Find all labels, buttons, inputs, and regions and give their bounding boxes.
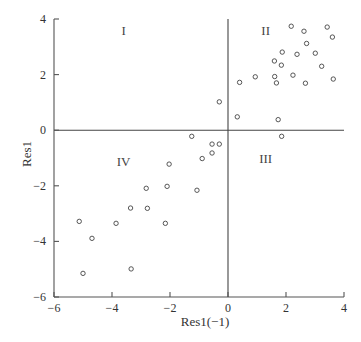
data-point bbox=[195, 188, 199, 192]
axes bbox=[54, 19, 344, 297]
y-ticks: −6−4−2024 bbox=[33, 12, 59, 304]
data-point bbox=[274, 81, 278, 85]
data-point bbox=[165, 184, 169, 188]
data-point bbox=[210, 151, 214, 155]
y-tick-label: −2 bbox=[33, 179, 46, 193]
data-point bbox=[276, 117, 280, 121]
x-tick-label: −6 bbox=[48, 301, 61, 315]
data-point bbox=[302, 29, 306, 33]
data-point bbox=[289, 24, 293, 28]
data-point bbox=[235, 115, 239, 119]
data-point bbox=[304, 41, 308, 45]
x-tick-label: −2 bbox=[164, 301, 177, 315]
y-tick-label: 0 bbox=[40, 123, 46, 137]
data-point bbox=[81, 271, 85, 275]
data-point bbox=[325, 25, 329, 29]
data-point bbox=[217, 100, 221, 104]
data-point bbox=[210, 142, 214, 146]
data-point bbox=[313, 51, 317, 55]
y-tick-label: −6 bbox=[33, 290, 46, 304]
data-point bbox=[237, 80, 241, 84]
data-point bbox=[319, 64, 323, 68]
quadrant-label: I bbox=[121, 23, 125, 38]
x-tick-label: 4 bbox=[341, 301, 347, 315]
data-point bbox=[77, 219, 81, 223]
data-point bbox=[163, 221, 167, 225]
x-tick-label: 0 bbox=[225, 301, 231, 315]
x-tick-label: −4 bbox=[106, 301, 119, 315]
data-point bbox=[144, 186, 148, 190]
y-axis-title: Res1 bbox=[19, 141, 34, 167]
y-tick-label: 4 bbox=[40, 12, 46, 26]
x-ticks: −6−4−2024 bbox=[48, 292, 347, 315]
y-tick-label: −4 bbox=[33, 234, 46, 248]
data-point bbox=[303, 81, 307, 85]
data-point bbox=[295, 52, 299, 56]
quadrant-label: IV bbox=[117, 154, 131, 169]
data-point bbox=[330, 35, 334, 39]
data-point bbox=[291, 73, 295, 77]
quadrant-label: III bbox=[259, 151, 272, 166]
data-point bbox=[145, 206, 149, 210]
data-point bbox=[114, 221, 118, 225]
scatter-chart: −6−4−2024 −6−4−2024 IIIIIIIV Res1(−1) Re… bbox=[0, 0, 361, 342]
data-point bbox=[331, 77, 335, 81]
data-point bbox=[129, 267, 133, 271]
data-points bbox=[77, 24, 335, 276]
x-tick-label: 2 bbox=[283, 301, 289, 315]
data-point bbox=[272, 74, 276, 78]
x-axis-title: Res1(−1) bbox=[181, 314, 230, 329]
y-tick-label: 2 bbox=[40, 68, 46, 82]
data-point bbox=[190, 134, 194, 138]
quadrant-label: II bbox=[261, 23, 270, 38]
data-point bbox=[279, 63, 283, 67]
data-point bbox=[128, 206, 132, 210]
data-point bbox=[280, 50, 284, 54]
data-point bbox=[279, 134, 283, 138]
data-point bbox=[90, 236, 94, 240]
data-point bbox=[200, 156, 204, 160]
quadrant-labels: IIIIIIIV bbox=[117, 23, 272, 169]
data-point bbox=[253, 75, 257, 79]
data-point bbox=[167, 162, 171, 166]
data-point bbox=[217, 142, 221, 146]
data-point bbox=[272, 59, 276, 63]
